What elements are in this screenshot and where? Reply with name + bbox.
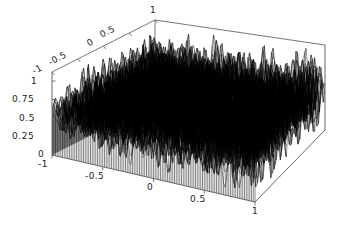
z-tick-label-075: 0.75 bbox=[12, 95, 34, 104]
z-tick-label-05: 0.5 bbox=[19, 114, 35, 123]
z-tick-label-1: 1 bbox=[31, 77, 37, 86]
y-tick-label-1: 1 bbox=[150, 6, 156, 15]
x-tick-label-0: 0 bbox=[147, 183, 153, 192]
z-tick-label-025: 0.25 bbox=[12, 132, 34, 141]
plot-figure: 1 0.75 0.5 0.25 0 -1 -0.5 0 0.5 1 -1 -0.… bbox=[0, 0, 347, 228]
x-tick-label-05: 0.5 bbox=[190, 195, 206, 204]
x-tick-label-1: 1 bbox=[252, 207, 258, 216]
z-tick-label-0: 0 bbox=[38, 150, 44, 159]
x-tick-label-neg05: -0.5 bbox=[85, 172, 104, 181]
surface-plot-canvas bbox=[0, 0, 347, 228]
x-tick-label-neg1: -1 bbox=[38, 160, 48, 169]
